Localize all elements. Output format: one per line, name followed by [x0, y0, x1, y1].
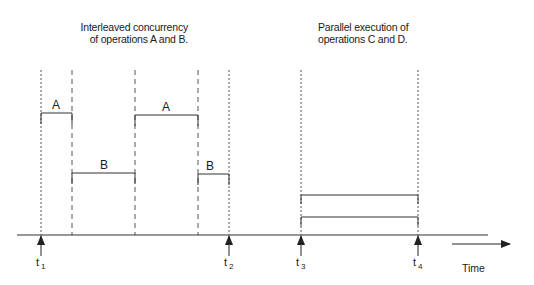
segment-b-2	[198, 174, 229, 185]
timeline-diagram	[0, 0, 534, 285]
parallel-segments	[301, 195, 418, 226]
marker-arrows	[41, 236, 418, 256]
marker-label-t2: t2	[224, 256, 234, 271]
segment-b-1	[72, 173, 135, 184]
switch-lines	[72, 70, 198, 235]
marker-label-t4: t4	[413, 256, 423, 271]
marker-label-t1: t1	[36, 256, 46, 271]
segment-a-1	[41, 113, 72, 124]
time-marker-lines	[41, 70, 418, 235]
segment-c	[301, 195, 418, 204]
time-axis-label: Time	[462, 262, 485, 274]
interleaved-segments	[41, 113, 229, 185]
label-b-2: B	[206, 159, 214, 173]
marker-label-t3: t3	[296, 256, 306, 271]
segment-a-2	[135, 115, 198, 126]
label-a-1: A	[52, 98, 60, 112]
label-b-1: B	[100, 158, 108, 172]
segment-d	[301, 217, 418, 226]
label-a-2: A	[162, 100, 170, 114]
